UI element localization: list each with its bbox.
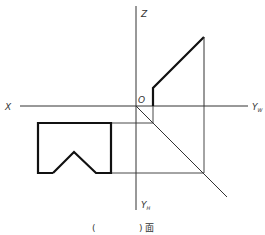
yh-axis-label: YH: [141, 200, 151, 211]
projection-diagram: X Z O YW YH ( ) 面: [0, 0, 265, 235]
caption-open-paren: (: [92, 223, 96, 233]
origin-label: O: [138, 95, 145, 105]
yw-axis-label: YW: [252, 102, 264, 113]
x-axis-label: X: [4, 102, 12, 112]
diagonal-construction-line: [136, 106, 227, 197]
z-axis-label: Z: [140, 9, 148, 19]
top-view-outline: [38, 123, 111, 173]
caption-suffix: 面: [145, 223, 154, 233]
caption-close-paren: ): [139, 223, 143, 233]
side-view-outline: [153, 37, 204, 106]
